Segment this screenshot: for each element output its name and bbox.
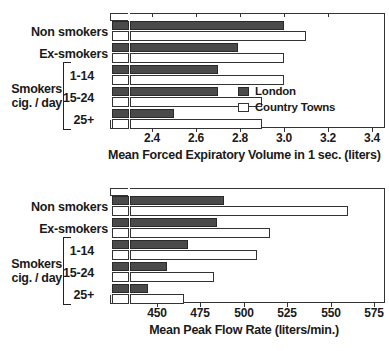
stub-bar-london-2-fev [112, 43, 129, 52]
axis-stub-pfr [110, 188, 128, 196]
legend-swatch-london-icon [238, 87, 249, 96]
axis-stub-bottom-pfr [110, 295, 128, 304]
cat-label-1-14: 1-14 [70, 70, 94, 83]
cat-label-ex-smokers: Ex-smokers [39, 48, 108, 61]
stub-bar-country-4-fev [112, 97, 129, 107]
bar-london-25plus-fev [130, 109, 174, 118]
ticklabel-2-4: 2.4 [144, 131, 160, 145]
stub-bar-london-2-pfr [112, 218, 129, 227]
group-label-line1: Smokers [4, 82, 62, 96]
smokers-bracket-pfr [63, 237, 71, 305]
stub-bar-london-4-pfr [112, 262, 129, 271]
stub-bar-country-1-fev [112, 31, 129, 41]
bar-country-1-14-pfr [130, 250, 257, 260]
bar-london-non-smokers-pfr [130, 196, 224, 205]
smokers-bracket [63, 62, 71, 130]
bar-london-ex-smokers-pfr [130, 218, 217, 227]
ticklabel-525: 525 [277, 306, 296, 320]
bar-country-25plus-pfr [130, 294, 184, 304]
axis-stub-fev [110, 13, 128, 21]
x-axis-title-fev: Mean Forced Expiratory Volume in 1 sec. … [108, 148, 380, 162]
bar-country-non-smokers-pfr [130, 206, 348, 216]
stub-bar-london-1-pfr [112, 196, 129, 205]
tick-top-2-6 [196, 13, 197, 17]
ticklabel-450: 450 [147, 306, 166, 320]
stub-bar-london-3-pfr [112, 240, 129, 249]
ticklabel-2-6: 2.6 [188, 131, 204, 145]
group-label-line2-pfr: cig. / day [4, 271, 62, 285]
group-label-line1-pfr: Smokers [4, 257, 62, 271]
cat-label-ex-smokers-pfr: Ex-smokers [39, 223, 108, 236]
stub-bar-london-5-fev [112, 109, 129, 118]
tick-top-2-8 [240, 13, 241, 17]
plot-area-pfr [130, 188, 385, 303]
stub-bar-country-4-pfr [112, 272, 129, 282]
legend-label-london: London [255, 85, 296, 98]
tick-top-3-2 [328, 13, 329, 17]
bar-london-15-24-pfr [130, 262, 167, 271]
cat-label-1-14-pfr: 1-14 [70, 245, 94, 258]
stub-bar-country-2-pfr [112, 228, 129, 238]
stub-bar-country-3-fev [112, 75, 129, 85]
ticklabel-550: 550 [321, 306, 340, 320]
tick-labels-fev: 2.4 2.6 2.8 3.0 3.2 3.4 [130, 131, 385, 145]
axis-stub-bottom-fev [110, 120, 128, 129]
group-label-line2: cig. / day [4, 96, 62, 110]
stub-bar-london-5-pfr [112, 284, 129, 293]
ticklabel-2-8: 2.8 [232, 131, 248, 145]
legend-swatch-country-towns-icon [238, 103, 249, 112]
cat-label-25plus: 25+ [73, 114, 94, 127]
bar-country-ex-smokers-fev [130, 53, 284, 63]
legend-label-country-towns: Country Towns [255, 101, 335, 114]
tick-labels-pfr: 450 475 500 525 550 575 [130, 306, 385, 320]
ticklabel-3-0: 3.0 [276, 131, 292, 145]
bar-london-non-smokers-fev [130, 21, 284, 30]
x-axis-title-pfr: Mean Peak Flow Rate (liters/min.) [108, 323, 380, 337]
bar-london-ex-smokers-fev [130, 43, 238, 52]
stub-bar-country-3-pfr [112, 250, 129, 260]
stub-bar-london-1-fev [112, 21, 129, 30]
ticklabel-3-4: 3.4 [364, 131, 380, 145]
cat-label-25plus-pfr: 25+ [73, 289, 94, 302]
bar-london-15-24-fev [130, 87, 218, 96]
stub-bar-london-3-fev [112, 65, 129, 74]
cat-label-non-smokers-pfr: Non smokers [31, 201, 108, 214]
bar-london-1-14-fev [130, 65, 218, 74]
group-label-smokers-pfr: Smokers cig. / day [4, 257, 62, 285]
stub-bar-country-2-fev [112, 53, 129, 63]
stub-bar-country-1-pfr [112, 206, 129, 216]
bar-london-25plus-pfr [130, 284, 148, 293]
cat-label-non-smokers: Non smokers [31, 26, 108, 39]
chart-fev: Non smokers Ex-smokers 1-14 15-24 25+ Sm… [0, 0, 389, 175]
group-label-smokers: Smokers cig. / day [4, 82, 62, 110]
stub-bar-london-4-fev [112, 87, 129, 96]
bar-country-1-14-fev [130, 75, 284, 85]
ticklabel-575: 575 [364, 306, 383, 320]
tick-top-3-0 [284, 13, 285, 17]
bar-country-25plus-fev [130, 119, 262, 129]
bar-country-ex-smokers-pfr [130, 228, 270, 238]
ticklabel-500: 500 [234, 306, 253, 320]
bar-country-15-24-pfr [130, 272, 214, 282]
bar-country-non-smokers-fev [130, 31, 306, 41]
plot-area-fev: London Country Towns [130, 13, 385, 128]
tick-top-2-4 [152, 13, 153, 17]
chart-pfr: Non smokers Ex-smokers 1-14 15-24 25+ Sm… [0, 172, 389, 351]
ticklabel-3-2: 3.2 [320, 131, 336, 145]
ticklabel-475: 475 [190, 306, 209, 320]
figure-root: Non smokers Ex-smokers 1-14 15-24 25+ Sm… [0, 0, 389, 351]
bar-london-1-14-pfr [130, 240, 188, 249]
